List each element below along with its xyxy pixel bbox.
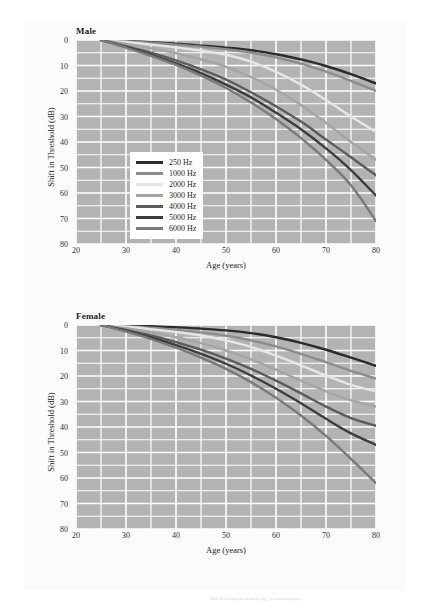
legend-item[interactable]: 3000 Hz <box>136 190 196 201</box>
legend-item[interactable]: 4000 Hz <box>136 201 196 212</box>
x-axis-title-male: Age (years) <box>76 260 376 270</box>
x-tick-label: 30 <box>122 531 130 540</box>
legend-label: 1000 Hz <box>169 169 196 178</box>
x-tick-label: 80 <box>372 531 380 540</box>
legend-swatch-icon <box>136 227 163 230</box>
legend-label: 250 Hz <box>169 158 192 167</box>
x-axis-ticks-male: 20304050607080 <box>76 246 376 260</box>
legend-item[interactable]: 5000 Hz <box>136 212 196 223</box>
x-tick-label: 50 <box>222 531 230 540</box>
x-tick-label: 80 <box>372 246 380 255</box>
legend-label: 2000 Hz <box>169 180 196 189</box>
chart-svg-female <box>76 325 376 529</box>
legend-item[interactable]: 6000 Hz <box>136 223 196 234</box>
y-tick-label: 0 <box>64 36 68 45</box>
legend-swatch-icon <box>136 205 163 208</box>
legend-item[interactable]: 250 Hz <box>136 157 196 168</box>
page-canvas: Male 01020304050607080 Shift in Threshol… <box>0 0 428 607</box>
chart-svg-male <box>76 40 376 244</box>
x-tick-label: 40 <box>172 246 180 255</box>
y-tick-label: 10 <box>60 346 68 355</box>
y-tick-label: 30 <box>60 397 68 406</box>
x-tick-label: 30 <box>122 246 130 255</box>
y-axis-title-male: Shift in Threshold (dB) <box>46 72 56 222</box>
y-tick-label: 70 <box>60 214 68 223</box>
panel-title-male: Male <box>76 26 96 36</box>
figure-caption: Shift in hearing threshold by age, sex a… <box>210 596 426 602</box>
x-axis-title-female: Age (years) <box>76 545 376 555</box>
plot-area-male <box>76 40 376 244</box>
chart-panel-male: Male 01020304050607080 Shift in Threshol… <box>24 22 406 305</box>
legend-swatch-icon <box>136 194 163 197</box>
legend-swatch-icon <box>136 172 163 175</box>
y-tick-label: 20 <box>60 372 68 381</box>
x-tick-label: 20 <box>72 246 80 255</box>
legend-label: 5000 Hz <box>169 213 196 222</box>
y-tick-label: 50 <box>60 163 68 172</box>
legend-label: 3000 Hz <box>169 191 196 200</box>
y-tick-label: 0 <box>64 321 68 330</box>
y-tick-label: 20 <box>60 87 68 96</box>
y-tick-label: 70 <box>60 499 68 508</box>
y-tick-label: 60 <box>60 189 68 198</box>
legend-swatch-icon <box>136 216 163 219</box>
x-tick-label: 50 <box>222 246 230 255</box>
legend-item[interactable]: 1000 Hz <box>136 168 196 179</box>
y-tick-label: 50 <box>60 448 68 457</box>
legend-swatch-icon <box>136 183 163 186</box>
legend-label: 6000 Hz <box>169 224 196 233</box>
panel-title-female: Female <box>76 311 105 321</box>
x-tick-label: 70 <box>322 246 330 255</box>
series-line-6000-hz <box>101 325 376 483</box>
y-tick-label: 60 <box>60 474 68 483</box>
plot-area-female <box>76 325 376 529</box>
legend-male: 250 Hz1000 Hz2000 Hz3000 Hz4000 Hz5000 H… <box>130 152 203 239</box>
legend-item[interactable]: 2000 Hz <box>136 179 196 190</box>
y-tick-label: 40 <box>60 138 68 147</box>
x-tick-label: 40 <box>172 531 180 540</box>
x-axis-ticks-female: 20304050607080 <box>76 531 376 545</box>
legend-label: 4000 Hz <box>169 202 196 211</box>
y-tick-label: 10 <box>60 61 68 70</box>
x-tick-label: 70 <box>322 531 330 540</box>
y-tick-label: 80 <box>60 525 68 534</box>
chart-panel-female: Female 01020304050607080 Shift in Thresh… <box>24 307 406 590</box>
y-tick-label: 80 <box>60 240 68 249</box>
legend-swatch-icon <box>136 161 163 164</box>
x-tick-label: 60 <box>272 531 280 540</box>
x-tick-label: 60 <box>272 246 280 255</box>
y-tick-label: 30 <box>60 112 68 121</box>
figure-area: Male 01020304050607080 Shift in Threshol… <box>24 20 406 590</box>
y-tick-label: 40 <box>60 423 68 432</box>
x-tick-label: 20 <box>72 531 80 540</box>
y-axis-title-female: Shift in Threshold (dB) <box>46 357 56 507</box>
